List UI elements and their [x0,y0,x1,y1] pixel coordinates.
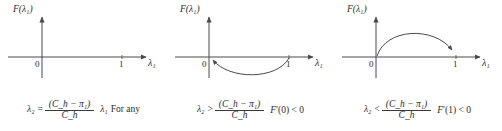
tick-label-zero: 0 [369,60,374,69]
tick-label-zero: 0 [35,60,40,69]
curve-above-axis [377,33,452,56]
derivative-relation: < [292,105,297,115]
fraction-denominator: C_h [45,110,94,121]
curve-below-axis [213,58,289,75]
math-figure-row: F(λ₁) λ₁ 0 1 λ₂ = (C_h − π₁) C_h λ₁ For … [0,0,502,131]
tick-label-one: 1 [286,60,291,69]
derivative-argument: (0) [278,105,289,115]
condition-fraction: (C_h − π₁) C_h [47,100,92,121]
fraction-denominator: C_h [382,110,431,121]
condition-expression: λ₂ = (C_h − π₁) C_h [27,100,93,121]
condition-lhs: λ₂ [27,105,34,115]
fraction-numerator: (C_h − π₁) [47,100,92,110]
condition-lhs: λ₂ [364,105,371,115]
derivative-value: 0 [466,105,471,115]
fraction-numerator: (C_h − π₁) [384,100,429,110]
condition-lhs: λ₂ [197,105,204,115]
tick-label-zero: 0 [202,60,207,69]
panel-flat: F(λ₁) λ₁ 0 1 λ₂ = (C_h − π₁) C_h λ₁ For … [0,0,167,131]
x-axis-label: λ₁ [315,58,323,68]
note-symbol: λ₁ [100,105,107,115]
panel-note: λ₁ For any [100,105,140,115]
panel-concave-down-caption: λ₂ < (C_h − π₁) C_h F′(1) < 0 [334,92,501,128]
y-axis-label: F(λ₁) [347,5,367,15]
panel-flat-caption: λ₂ = (C_h − π₁) C_h λ₁ For any [0,92,167,128]
x-axis-label: λ₁ [148,58,156,68]
condition-expression: λ₂ > (C_h − π₁) C_h [197,100,263,121]
derivative-relation: < [459,105,464,115]
panel-concave-up-caption: λ₂ > (C_h − π₁) C_h F′(0) < 0 [167,92,334,128]
tick-label-one: 1 [453,60,458,69]
condition-expression: λ₂ < (C_h − π₁) C_h [364,100,430,121]
y-axis-label: F(λ₁) [180,5,200,15]
condition-relation: > [206,105,213,115]
condition-fraction: (C_h − π₁) C_h [217,100,262,121]
tick-label-one: 1 [119,60,124,69]
derivative-condition: F′(1) < 0 [437,105,471,115]
condition-fraction: (C_h − π₁) C_h [384,100,429,121]
derivative-argument: (1) [445,105,456,115]
y-axis-label: F(λ₁) [13,5,33,15]
fraction-denominator: C_h [215,110,264,121]
derivative-condition: F′(0) < 0 [270,105,304,115]
x-axis-label: λ₁ [482,58,490,68]
note-text: For any [111,105,140,115]
panel-concave-up: F(λ₁) λ₁ 0 1 λ₂ > (C_h − π₁) C_h F′(0) <… [167,0,334,131]
fraction-numerator: (C_h − π₁) [217,100,262,110]
panel-concave-down: F(λ₁) λ₁ 0 1 λ₂ < (C_h − π₁) C_h F′(1) <… [334,0,501,131]
condition-relation: < [373,105,380,115]
condition-relation: = [36,105,43,115]
derivative-value: 0 [299,105,304,115]
